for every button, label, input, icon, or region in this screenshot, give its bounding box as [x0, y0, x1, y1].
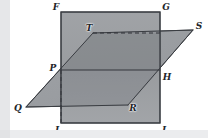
geometry-figure: [0, 0, 208, 138]
diagram-canvas: F G T S P H Q R J I: [0, 0, 208, 138]
